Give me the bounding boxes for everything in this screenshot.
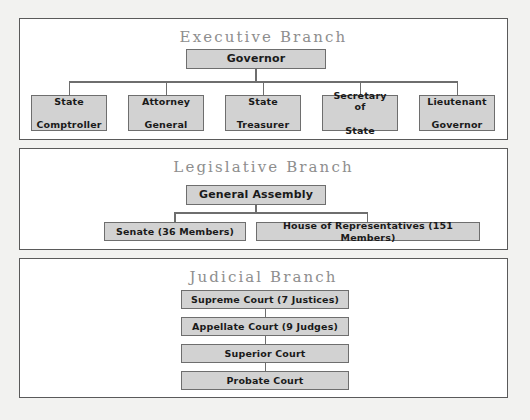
node-house-of-representatives: House of Representatives (151 Members)	[256, 222, 480, 241]
node-secretary-of-state-label: Secretary ofState	[323, 90, 397, 136]
line-1: Attorney	[139, 96, 193, 108]
node-general-assembly: General Assembly	[186, 185, 326, 205]
connector-drop-state-comptroller	[69, 81, 71, 95]
node-governor-label: Governor	[224, 52, 289, 65]
line-1: Secretary of	[326, 90, 394, 113]
node-governor: Governor	[186, 49, 326, 69]
node-appellate-court-label: Appellate Court (9 Judges)	[189, 321, 341, 333]
node-superior-court: Superior Court	[181, 344, 349, 363]
connector-appellate-to-superior	[265, 336, 267, 344]
connector-supreme-to-appellate	[265, 309, 267, 317]
node-probate-court-label: Probate Court	[223, 375, 306, 387]
line-1: State	[33, 96, 104, 108]
node-supreme-court-label: Supreme Court (7 Justices)	[188, 294, 342, 306]
line-2: Governor	[424, 119, 489, 131]
line-1: State	[234, 96, 293, 108]
panel-title-executive: Executive Branch	[20, 28, 507, 46]
line-2: State	[326, 125, 394, 137]
connector-legislative-bus	[174, 212, 368, 214]
node-senate: Senate (36 Members)	[104, 222, 246, 241]
line-2: Treasurer	[234, 119, 293, 131]
node-house-of-representatives-label: House of Representatives (151 Members)	[257, 220, 479, 243]
panel-title-judicial: Judicial Branch	[20, 268, 507, 286]
node-secretary-of-state: Secretary ofState	[322, 95, 398, 131]
node-senate-label: Senate (36 Members)	[113, 226, 237, 238]
connector-drop-attorney-general	[166, 81, 168, 95]
node-lieutenant-governor-label: LieutenantGovernor	[421, 96, 492, 131]
panel-title-legislative: Legislative Branch	[20, 158, 507, 176]
node-state-treasurer: StateTreasurer	[225, 95, 301, 131]
node-state-comptroller: StateComptroller	[31, 95, 107, 131]
node-attorney-general-label: AttorneyGeneral	[136, 96, 196, 131]
node-lieutenant-governor: LieutenantGovernor	[419, 95, 495, 131]
connector-drop-state-treasurer	[263, 81, 265, 95]
line-1: Lieutenant	[424, 96, 489, 108]
connector-drop-lieutenant-governor	[457, 81, 459, 95]
node-probate-court: Probate Court	[181, 371, 349, 390]
node-appellate-court: Appellate Court (9 Judges)	[181, 317, 349, 336]
node-supreme-court: Supreme Court (7 Justices)	[181, 290, 349, 309]
line-2: Comptroller	[33, 119, 104, 131]
connector-superior-to-probate	[265, 363, 267, 371]
line-2: General	[139, 119, 193, 131]
node-state-treasurer-label: StateTreasurer	[231, 96, 296, 131]
connector-drop-senate	[174, 212, 176, 222]
node-superior-court-label: Superior Court	[222, 348, 309, 360]
node-attorney-general: AttorneyGeneral	[128, 95, 204, 131]
node-general-assembly-label: General Assembly	[196, 188, 316, 201]
node-state-comptroller-label: StateComptroller	[30, 96, 107, 131]
government-branches-org-chart: Executive Branch Governor StateComptroll…	[0, 0, 530, 420]
